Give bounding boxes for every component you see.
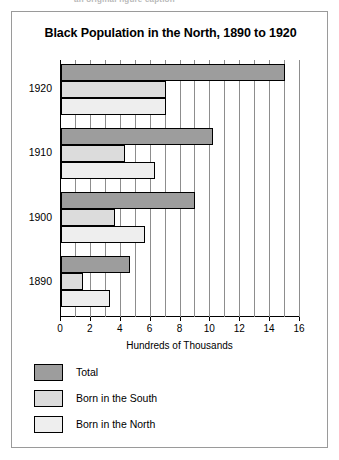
chart-legend: TotalBorn in the SouthBorn in the North <box>34 359 157 437</box>
legend-label: Born in the North <box>76 418 155 430</box>
figure-container: Black Population in the North, 1890 to 1… <box>11 11 328 448</box>
x-tick-label: 4 <box>108 323 132 334</box>
page-top-cut-text-label: an original figure caption <box>74 0 175 4</box>
page-top-cut-text: an original figure caption <box>0 0 339 11</box>
x-tick <box>180 317 181 321</box>
legend-item: Total <box>34 359 157 385</box>
legend-swatch <box>34 390 63 407</box>
bar <box>61 273 83 290</box>
x-tick-label: 0 <box>48 323 72 334</box>
legend-label: Born in the South <box>76 392 157 404</box>
x-tick <box>120 317 121 321</box>
bar <box>61 290 110 307</box>
x-tick <box>209 317 210 321</box>
legend-swatch <box>34 416 63 433</box>
x-axis-title: Hundreds of Thousands <box>60 340 299 351</box>
x-tick <box>150 317 151 321</box>
year-label: 1890 <box>12 275 52 287</box>
x-tick-label: 2 <box>78 323 102 334</box>
legend-swatch <box>34 364 63 381</box>
x-tick <box>299 317 300 321</box>
x-tick-label: 10 <box>197 323 221 334</box>
x-tick <box>60 317 61 321</box>
x-tick <box>239 317 240 321</box>
bar-group: 1890 <box>60 60 299 317</box>
gridline <box>299 60 300 317</box>
x-tick-label: 8 <box>168 323 192 334</box>
x-tick-label: 6 <box>138 323 162 334</box>
legend-item: Born in the South <box>34 385 157 411</box>
x-tick <box>90 317 91 321</box>
year-label: 1900 <box>12 211 52 223</box>
x-tick-label: 12 <box>227 323 251 334</box>
legend-item: Born in the North <box>34 411 157 437</box>
chart-title: Black Population in the North, 1890 to 1… <box>12 26 329 40</box>
x-tick-label: 14 <box>257 323 281 334</box>
year-label: 1920 <box>12 82 52 94</box>
x-tick <box>269 317 270 321</box>
plot-area: 0246810121416 1920191019001890 Hundreds … <box>60 60 299 317</box>
year-label: 1910 <box>12 146 52 158</box>
bar <box>61 256 130 273</box>
x-tick-label: 16 <box>287 323 311 334</box>
legend-label: Total <box>76 366 98 378</box>
